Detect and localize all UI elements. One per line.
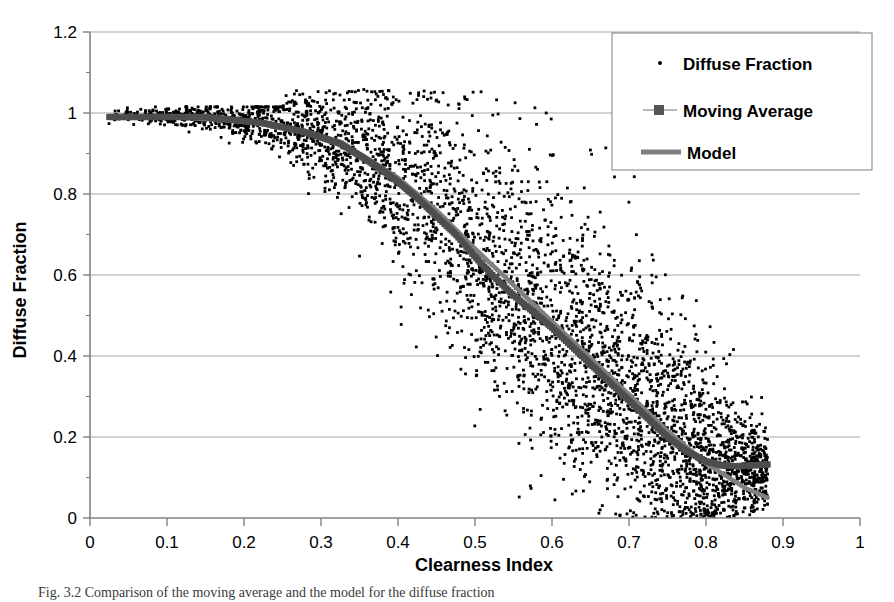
scatter-point	[407, 167, 410, 170]
scatter-point	[378, 125, 381, 128]
scatter-point	[366, 206, 369, 209]
scatter-point	[587, 350, 590, 353]
scatter-point	[705, 408, 708, 411]
scatter-point	[621, 294, 624, 297]
scatter-point	[660, 451, 663, 454]
scatter-point	[344, 118, 347, 121]
scatter-point	[608, 412, 611, 415]
scatter-point	[498, 315, 501, 318]
scatter-point	[699, 502, 702, 505]
scatter-point	[285, 108, 288, 111]
scatter-point	[337, 134, 340, 137]
scatter-point	[613, 393, 616, 396]
scatter-point	[744, 459, 747, 462]
scatter-point	[456, 249, 459, 252]
scatter-point	[734, 442, 737, 445]
scatter-point	[298, 93, 301, 96]
x-tick-label: 0.3	[309, 533, 333, 552]
scatter-point	[544, 254, 547, 257]
scatter-point	[682, 351, 685, 354]
scatter-point	[689, 471, 692, 474]
scatter-point	[673, 420, 676, 423]
scatter-point	[600, 425, 603, 428]
scatter-point	[167, 121, 170, 124]
scatter-point	[663, 407, 666, 410]
scatter-point	[608, 286, 611, 289]
scatter-point	[678, 363, 681, 366]
scatter-point	[507, 301, 510, 304]
scatter-point	[621, 331, 624, 334]
scatter-point	[577, 386, 580, 389]
scatter-point	[664, 403, 667, 406]
scatter-point	[661, 344, 664, 347]
scatter-point	[569, 279, 572, 282]
scatter-point	[712, 484, 715, 487]
scatter-point	[329, 148, 332, 151]
scatter-point	[638, 500, 641, 503]
scatter-point	[688, 365, 691, 368]
scatter-point	[385, 190, 388, 193]
scatter-point	[534, 331, 537, 334]
scatter-point	[636, 476, 639, 479]
scatter-point	[571, 292, 574, 295]
scatter-point	[727, 439, 730, 442]
scatter-point	[400, 306, 403, 309]
scatter-point	[457, 264, 460, 267]
scatter-point	[659, 298, 662, 301]
scatter-point	[563, 354, 566, 357]
scatter-point	[522, 369, 525, 372]
scatter-point	[379, 104, 382, 107]
scatter-point	[430, 97, 433, 100]
scatter-point	[517, 316, 520, 319]
scatter-point	[505, 182, 508, 185]
scatter-point	[547, 264, 550, 267]
scatter-point	[616, 316, 619, 319]
scatter-point	[643, 350, 646, 353]
scatter-point	[386, 115, 389, 118]
scatter-point	[403, 278, 406, 281]
scatter-point	[420, 152, 423, 155]
scatter-point	[675, 481, 678, 484]
scatter-point	[662, 391, 665, 394]
scatter-point	[380, 117, 383, 120]
scatter-point	[552, 316, 555, 319]
scatter-point	[461, 134, 464, 137]
scatter-point	[523, 315, 526, 318]
scatter-point	[423, 190, 426, 193]
scatter-point	[417, 94, 420, 97]
scatter-point	[238, 131, 241, 134]
scatter-point	[558, 344, 561, 347]
scatter-point	[713, 341, 716, 344]
scatter-point	[534, 355, 537, 358]
scatter-point	[651, 481, 654, 484]
scatter-point	[714, 397, 717, 400]
scatter-point	[452, 317, 455, 320]
scatter-point	[618, 407, 621, 410]
scatter-point	[572, 386, 575, 389]
scatter-point	[640, 370, 643, 373]
scatter-point	[497, 353, 500, 356]
scatter-point	[505, 390, 508, 393]
scatter-point	[659, 418, 662, 421]
scatter-point	[376, 188, 379, 191]
scatter-point	[431, 237, 434, 240]
scatter-point	[693, 391, 696, 394]
scatter-point	[595, 305, 598, 308]
scatter-point	[568, 252, 571, 255]
scatter-point	[586, 285, 589, 288]
moving-average-marker	[765, 461, 771, 467]
scatter-point	[647, 444, 650, 447]
scatter-point	[389, 202, 392, 205]
scatter-point	[433, 278, 436, 281]
scatter-point	[310, 154, 313, 157]
scatter-point	[668, 401, 671, 404]
scatter-point	[337, 154, 340, 157]
scatter-point	[491, 286, 494, 289]
scatter-point	[606, 423, 609, 426]
scatter-point	[587, 408, 590, 411]
scatter-point	[176, 124, 179, 127]
scatter-point	[623, 447, 626, 450]
scatter-point	[592, 318, 595, 321]
scatter-point	[470, 317, 473, 320]
scatter-point	[417, 223, 420, 226]
